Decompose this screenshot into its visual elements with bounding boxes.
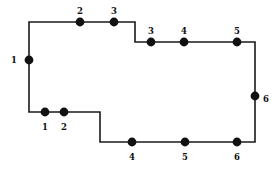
node-dot-lower-left-2[interactable] <box>60 108 69 117</box>
node-dot-bottom-6[interactable] <box>233 138 242 147</box>
node-dot-upper-4[interactable] <box>180 38 189 47</box>
node-label-top-2: 2 <box>77 7 83 16</box>
node-dot-upper-5[interactable] <box>233 38 242 47</box>
polygon-diagram: 123345645612 <box>0 0 280 176</box>
node-label-top-3: 3 <box>111 7 117 16</box>
node-label-upper-5: 5 <box>234 27 240 36</box>
node-label-upper-4: 4 <box>181 27 187 36</box>
node-label-bottom-5: 5 <box>182 153 188 162</box>
node-label-lower-left-1: 1 <box>42 123 48 132</box>
node-dot-lower-left-1[interactable] <box>41 108 50 117</box>
node-label-bottom-6: 6 <box>234 153 240 162</box>
node-dot-top-3[interactable] <box>110 18 119 27</box>
node-label-lower-left-2: 2 <box>61 123 67 132</box>
node-label-bottom-4: 4 <box>129 153 135 162</box>
node-dot-right-6[interactable] <box>251 92 260 101</box>
node-label-upper-3: 3 <box>148 27 154 36</box>
node-label-left-1: 1 <box>11 56 17 65</box>
node-dot-bottom-4[interactable] <box>128 138 137 147</box>
node-label-right-6: 6 <box>263 95 269 104</box>
node-dot-top-2[interactable] <box>76 18 85 27</box>
node-dot-upper-3[interactable] <box>147 38 156 47</box>
node-dot-bottom-5[interactable] <box>181 138 190 147</box>
node-dot-group <box>25 18 260 147</box>
node-dot-left-1[interactable] <box>25 56 34 65</box>
